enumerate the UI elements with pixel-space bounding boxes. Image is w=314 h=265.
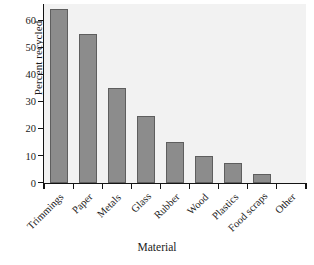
x-tick-label-other: Other: [273, 191, 298, 216]
y-tick-label-10: 10: [2, 150, 36, 161]
x-tick-4: [160, 184, 161, 189]
y-tick-label-0: 0: [2, 177, 36, 188]
bar-plastics: [224, 163, 242, 183]
bar-paper: [79, 34, 97, 183]
x-tick-label-paper: Paper: [70, 191, 95, 216]
bar-metals: [108, 88, 126, 183]
bar-wood: [195, 156, 213, 183]
x-tick-3: [131, 184, 132, 189]
x-tick-label-wood: Wood: [185, 191, 210, 216]
y-tick-50: [38, 47, 43, 48]
y-tick-0: [38, 182, 43, 183]
y-tick-30: [38, 101, 43, 102]
x-tick-label-glass: Glass: [129, 191, 153, 215]
y-tick-label-40: 40: [2, 69, 36, 80]
x-tick-0: [43, 184, 44, 189]
x-axis-title: Material: [0, 241, 314, 253]
x-tick-label-trimmings: Trimmings: [25, 191, 66, 232]
bar-trimmings: [50, 9, 68, 182]
x-tick-7: [247, 184, 248, 189]
y-tick-label-60: 60: [2, 15, 36, 26]
x-tick-6: [218, 184, 219, 189]
x-axis-line: [43, 183, 307, 184]
y-tick-label-50: 50: [2, 42, 36, 53]
y-tick-40: [38, 74, 43, 75]
x-tick-5: [189, 184, 190, 189]
y-tick-20: [38, 128, 43, 129]
bar-rubber: [166, 142, 184, 183]
y-tick-label-30: 30: [2, 96, 36, 107]
y-tick-label-20: 20: [2, 123, 36, 134]
x-tick-label-metals: Metals: [95, 191, 123, 219]
y-tick-60: [38, 20, 43, 21]
y-tick-10: [38, 155, 43, 156]
x-tick-2: [102, 184, 103, 189]
bar-food-scraps: [253, 174, 271, 182]
x-tick-1: [73, 184, 74, 189]
x-tick-9: [305, 184, 306, 189]
bar-glass: [137, 116, 155, 182]
x-tick-label-rubber: Rubber: [152, 191, 182, 221]
x-tick-8: [276, 184, 277, 189]
y-axis-line: [43, 4, 44, 184]
chart-figure: Percent recycled 0102030405060 Trimmings…: [0, 0, 314, 265]
